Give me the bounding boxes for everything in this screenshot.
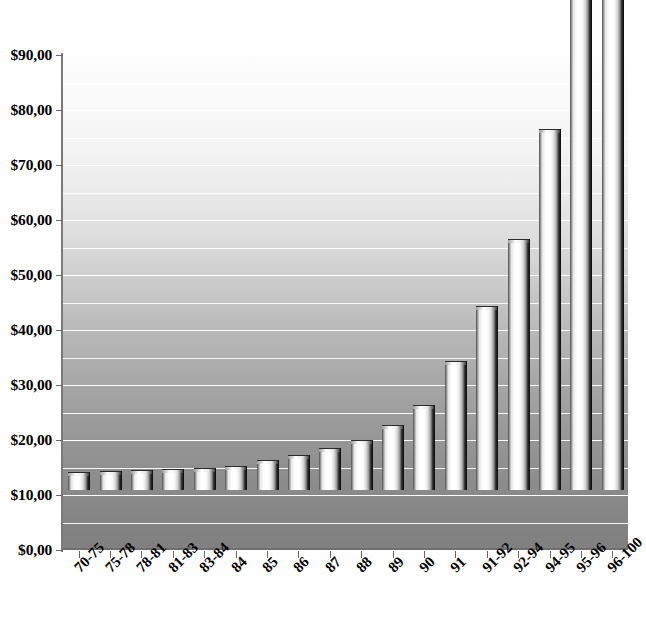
x-tick-mark <box>330 551 331 558</box>
x-tick-mark <box>455 551 456 558</box>
y-tick-mark <box>56 495 63 496</box>
x-tick-label: 89 <box>385 553 408 576</box>
x-tick-label: 88 <box>353 553 376 576</box>
x-tick-label: 83-84 <box>196 539 233 576</box>
y-tick-mark <box>56 220 63 221</box>
x-tick-label: 96-100 <box>604 534 646 576</box>
x-tick-mark <box>361 551 362 558</box>
x-tick-mark <box>141 551 142 558</box>
y-tick-mark <box>56 275 63 276</box>
x-tick-mark <box>550 551 551 558</box>
x-tick-label: 90 <box>416 553 439 576</box>
x-tick-label: 95-96 <box>573 539 610 576</box>
x-tick-label: 81-83 <box>165 539 202 576</box>
x-tick-mark <box>110 551 111 558</box>
y-tick-mark <box>56 440 63 441</box>
y-tick-mark <box>56 55 63 56</box>
x-tick-mark <box>424 551 425 558</box>
x-tick-label: 91 <box>447 553 470 576</box>
y-tick-mark <box>56 385 63 386</box>
x-tick-mark <box>581 551 582 558</box>
y-tick-mark <box>56 165 63 166</box>
x-tick-mark <box>236 551 237 558</box>
y-tick-mark <box>56 550 63 551</box>
x-tick-label: 92-94 <box>510 539 547 576</box>
y-tick-mark <box>56 330 63 331</box>
x-tick-mark <box>79 551 80 558</box>
x-tick-mark <box>267 551 268 558</box>
x-tick-mark <box>518 551 519 558</box>
x-tick-mark <box>487 551 488 558</box>
x-tick-label: 70-75 <box>71 539 108 576</box>
x-tick-label: 94-95 <box>542 539 579 576</box>
y-tick-mark <box>56 110 63 111</box>
x-tick-mark <box>204 551 205 558</box>
x-tick-label: 87 <box>322 553 345 576</box>
x-tick-mark <box>612 551 613 558</box>
x-tick-label: 86 <box>290 553 313 576</box>
x-tick-mark <box>173 551 174 558</box>
x-tick-label: 84 <box>228 553 251 576</box>
x-tick-mark <box>393 551 394 558</box>
x-tick-label: 78-81 <box>133 539 170 576</box>
x-tick-mark <box>298 551 299 558</box>
x-tick-label: 85 <box>259 553 282 576</box>
x-tick-label: 75-78 <box>102 539 139 576</box>
x-tick-label: 91-92 <box>479 539 516 576</box>
